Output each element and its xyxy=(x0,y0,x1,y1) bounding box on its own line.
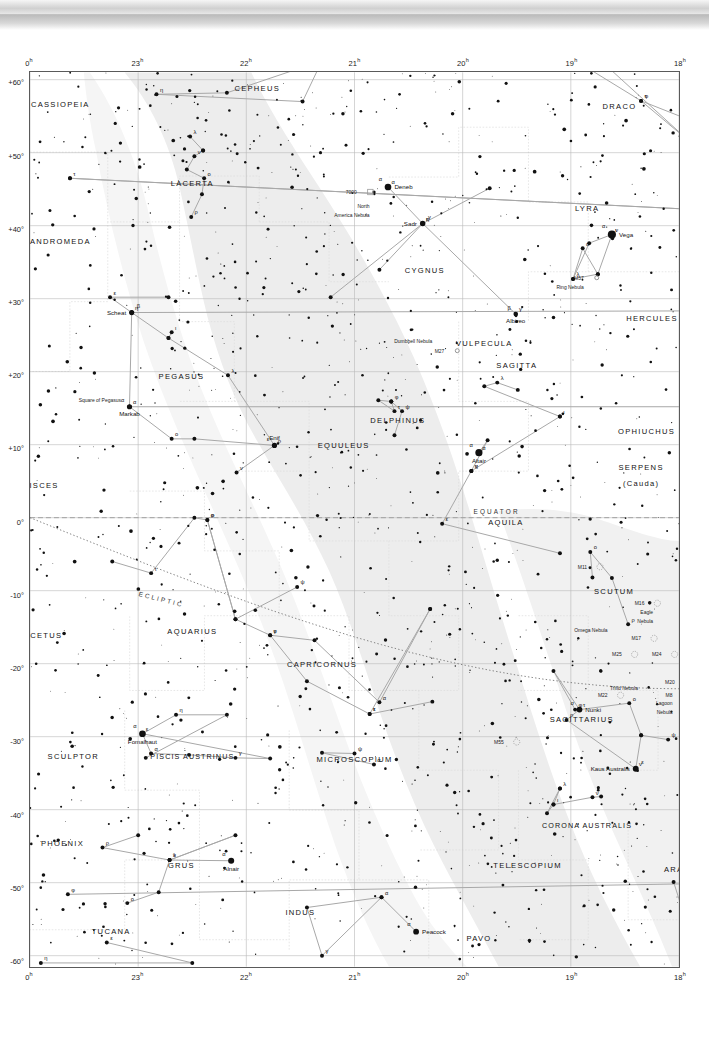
star-field-bright xyxy=(150,909,153,912)
star-background xyxy=(411,830,412,831)
star-background xyxy=(185,161,187,163)
star-figure-node-157 xyxy=(590,576,594,580)
star-figure-node-99 xyxy=(268,757,272,761)
dso-eagle-9-label: Eagle xyxy=(640,609,653,615)
star-background xyxy=(93,446,94,447)
dso-dumbbell-nebula-5-label: Dumbbell Nebula xyxy=(394,338,432,344)
star-background xyxy=(132,219,133,220)
star-background xyxy=(295,169,297,171)
star-background xyxy=(180,341,181,342)
star-background xyxy=(295,115,296,116)
star-background xyxy=(556,702,557,703)
star-background xyxy=(317,494,318,495)
star-background xyxy=(296,445,299,448)
dec-tick-label: +40° xyxy=(8,225,24,234)
star-background xyxy=(112,445,115,448)
bayer-label: φ xyxy=(645,93,649,99)
star-background xyxy=(442,614,444,616)
star-background xyxy=(212,96,213,97)
star-background xyxy=(544,657,546,659)
star-field-bright xyxy=(416,426,419,429)
star-background xyxy=(480,829,481,830)
star-background xyxy=(133,189,135,191)
star-background xyxy=(396,108,397,109)
star-background xyxy=(609,218,610,219)
star-background xyxy=(277,705,278,706)
star-field-bright xyxy=(278,768,281,771)
constellation-name-grus: GRUS xyxy=(168,861,195,870)
star-background xyxy=(388,527,389,528)
star-field-bright xyxy=(92,227,95,230)
star-field-bright xyxy=(103,902,106,905)
star-background xyxy=(332,467,333,468)
dso-m57-3-label: M57 xyxy=(574,275,584,281)
star-background xyxy=(501,703,502,704)
star-field-bright xyxy=(221,898,224,901)
star-background xyxy=(36,908,38,910)
star-background xyxy=(440,831,441,832)
star-background xyxy=(671,422,672,423)
star-background xyxy=(43,494,45,496)
star-field-bright xyxy=(520,445,524,449)
constellation-line-7 xyxy=(379,188,489,269)
star-background xyxy=(600,734,602,736)
bayer-label: ε xyxy=(113,290,116,296)
star-background xyxy=(395,389,397,391)
star-background xyxy=(449,574,450,575)
star-background xyxy=(169,828,172,831)
star-background xyxy=(577,637,579,639)
constellation-name-tucana: TUCANA xyxy=(92,927,131,936)
star-field-bright xyxy=(624,879,627,882)
star-background xyxy=(379,615,380,616)
star-background xyxy=(34,232,35,233)
star-background xyxy=(492,458,493,459)
star-background xyxy=(322,804,324,806)
constellation-name-draco: DRACO xyxy=(603,102,637,111)
star-background xyxy=(74,745,75,746)
star-label-markab: Markab xyxy=(119,410,140,417)
star-field-bright xyxy=(665,388,668,391)
star-background xyxy=(224,278,226,280)
star-background xyxy=(108,823,110,825)
star-background xyxy=(672,852,674,854)
star-field-bright xyxy=(553,832,557,836)
star-background xyxy=(384,99,386,101)
star-background xyxy=(625,788,626,789)
star-background xyxy=(599,860,600,861)
star-background xyxy=(305,289,307,291)
star-background xyxy=(376,111,378,113)
star-background xyxy=(393,216,394,217)
star-background xyxy=(529,342,531,344)
star-background xyxy=(255,211,257,213)
star-background xyxy=(670,308,672,310)
star-background xyxy=(404,876,405,877)
star-background xyxy=(341,97,342,98)
star-field-bright xyxy=(306,565,309,568)
star-background xyxy=(629,672,630,673)
star-figure-node-138 xyxy=(149,571,153,575)
star-figure-node-91 xyxy=(552,669,556,673)
star-field-bright xyxy=(594,533,597,536)
star-background xyxy=(417,860,419,862)
star-background xyxy=(676,256,678,258)
star-background xyxy=(229,183,230,184)
star-figure-node-161 xyxy=(430,700,434,704)
star-background xyxy=(337,892,339,894)
star-background xyxy=(550,708,553,711)
star-background xyxy=(247,300,248,301)
star-background xyxy=(358,454,360,456)
star-background xyxy=(184,748,185,749)
star-background xyxy=(469,865,470,866)
star-field-bright xyxy=(292,861,295,864)
star-background xyxy=(588,103,591,106)
star-background xyxy=(30,843,33,846)
star-background xyxy=(120,747,121,748)
star-background xyxy=(595,657,596,658)
star-background xyxy=(156,72,159,75)
star-background xyxy=(382,389,384,391)
star-field-bright xyxy=(478,155,481,158)
star-background xyxy=(457,608,459,610)
star-background xyxy=(142,957,143,958)
star-background xyxy=(664,963,665,964)
star-field-bright xyxy=(590,223,594,227)
